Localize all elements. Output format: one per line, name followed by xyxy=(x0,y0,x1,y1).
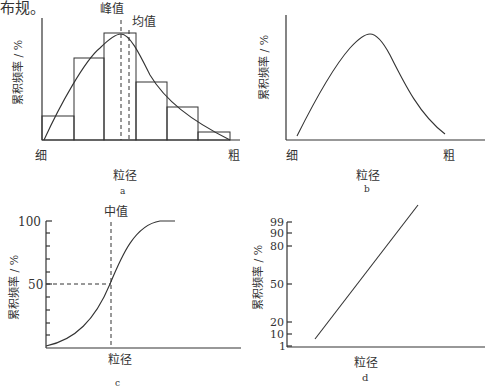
y-tick-80: 80 xyxy=(270,240,284,253)
panel-caption: c xyxy=(115,378,120,388)
fine-label: 细 xyxy=(286,149,298,163)
histogram-bar xyxy=(167,107,198,140)
histogram-bar xyxy=(198,132,230,140)
histogram-bar xyxy=(42,116,74,140)
figure-canvas: 布规。 峰值 均值 细 粗 粒径 a 累积频率 / % 细 粗 粒径 b 累积频… xyxy=(0,0,488,390)
fine-label: 细 xyxy=(35,149,47,163)
y-axis-label: 累积频率 / % xyxy=(7,255,21,320)
mean-label: 均值 xyxy=(132,14,156,29)
panel-d-probability-plot: 99 90 80 50 20 10 1 粒径 d 累积频率 / % xyxy=(251,205,485,383)
y-tick-100: 100 xyxy=(18,215,41,229)
x-axis-label: 粒径 xyxy=(113,168,137,183)
coarse-label: 粗 xyxy=(228,149,240,163)
y-ticks xyxy=(287,222,292,346)
y-tick-90: 90 xyxy=(270,227,284,240)
coarse-label: 粗 xyxy=(443,149,455,163)
median-label: 中值 xyxy=(104,204,128,219)
panel-caption: d xyxy=(362,372,369,383)
y-axis-label: 累积频率 / % xyxy=(257,35,271,100)
y-tick-50: 50 xyxy=(270,278,284,291)
panel-c-cumulative-curve: 中值 100 50 粒径 c 累积频率 / % xyxy=(7,204,241,388)
peak-label: 峰值 xyxy=(100,1,124,16)
panel-caption: b xyxy=(364,184,370,194)
x-axis-label: 粒径 xyxy=(354,355,378,370)
histogram-bar xyxy=(74,58,104,140)
y-axis-label: 累积频率 / % xyxy=(11,40,25,105)
panel-caption: a xyxy=(120,186,126,196)
y-tick-1: 1 xyxy=(279,340,286,353)
bell-curve xyxy=(297,34,445,136)
y-tick-50: 50 xyxy=(28,278,43,292)
panel-b-frequency-curve: 细 粗 粒径 b 累积频率 / % xyxy=(257,15,485,194)
probability-line xyxy=(315,205,418,339)
x-axis-label: 粒径 xyxy=(108,352,132,367)
panel-a-histogram: 峰值 均值 细 粗 粒径 a 累积频率 / % xyxy=(11,1,240,196)
top-text-fragment: 布规。 xyxy=(0,0,45,17)
histogram-bar xyxy=(136,82,167,140)
frequency-curve xyxy=(44,34,230,140)
y-ticks xyxy=(46,221,52,335)
x-axis-label: 粒径 xyxy=(356,168,380,183)
histogram-bar xyxy=(104,33,136,140)
y-axis-label: 累积频率 / % xyxy=(251,245,265,310)
